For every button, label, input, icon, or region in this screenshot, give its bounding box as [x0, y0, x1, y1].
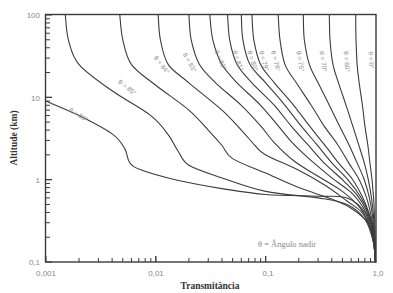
y-tick-label-0-1: 0,1	[29, 258, 41, 267]
curve-label: θ = 75°	[295, 50, 306, 72]
x-tick-label-0-1: 0,1	[262, 269, 274, 278]
curve-label: θ = 70°	[319, 51, 329, 73]
transmittance-chart: θ = 86°θ = 85°θ = 84°θ = 83°θ = 82°θ = 8…	[0, 0, 393, 293]
x-tick-label-1-0: 1,0	[372, 269, 384, 278]
curve-label: θ = 86°	[68, 106, 90, 123]
curve-labels-group: θ = 86°θ = 85°θ = 84°θ = 83°θ = 82°θ = 8…	[68, 49, 376, 123]
curve-label: θ = 60°	[342, 51, 351, 73]
curve-label: θ = 78°	[270, 50, 282, 72]
y-tick-label-1: 1	[36, 176, 41, 185]
curve-label: θ = 81°	[232, 49, 246, 71]
x-axis-label: Transmitância	[181, 281, 240, 291]
curve-75deg	[278, 15, 375, 262]
curve-label: θ = 82°	[213, 49, 228, 71]
y-tick-label-100: 100	[27, 11, 41, 20]
curve-label: θ = 0°	[367, 51, 375, 69]
x-tick-label-0-001: 0,001	[36, 269, 57, 278]
curve-70deg	[303, 15, 375, 262]
y-axis-label: Altitude (km)	[9, 110, 20, 165]
curve-label: θ = 85°	[117, 78, 138, 97]
y-tick-label-10: 10	[31, 94, 40, 103]
x-tick-label-0-01: 0,01	[148, 269, 164, 278]
nadir-angle-annotation: θ = Ângulo nadir	[258, 239, 316, 249]
